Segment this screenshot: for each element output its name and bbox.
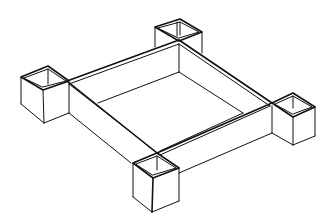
frame-drawing bbox=[0, 0, 336, 224]
right-post bbox=[272, 93, 315, 145]
front-post bbox=[133, 153, 179, 212]
frame bbox=[67, 40, 272, 173]
diagram-canvas bbox=[0, 0, 336, 224]
left-post bbox=[21, 66, 69, 123]
